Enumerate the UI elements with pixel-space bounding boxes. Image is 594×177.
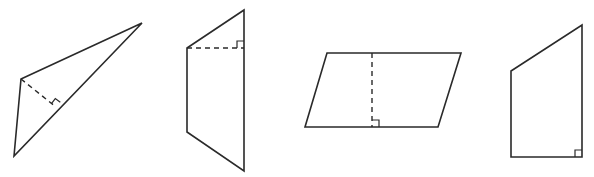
right-angle-marker-icon: [372, 120, 379, 127]
obtuse-triangle: [14, 23, 142, 156]
parallelogram: [305, 53, 461, 127]
geometry-figure: [0, 0, 594, 177]
right-trapezoid-outline: [511, 25, 582, 157]
parallelogram-outline: [305, 53, 461, 127]
triangle-height-dashed: [21, 79, 56, 107]
trapezoid-outline: [187, 10, 244, 171]
right-angle-marker-icon: [52, 99, 61, 104]
triangle-outline: [14, 23, 142, 156]
trapezoid-vertical: [187, 10, 244, 171]
right-angle-marker-icon: [237, 41, 244, 48]
right-angle-marker-icon: [575, 150, 582, 157]
right-trapezoid: [511, 25, 582, 157]
